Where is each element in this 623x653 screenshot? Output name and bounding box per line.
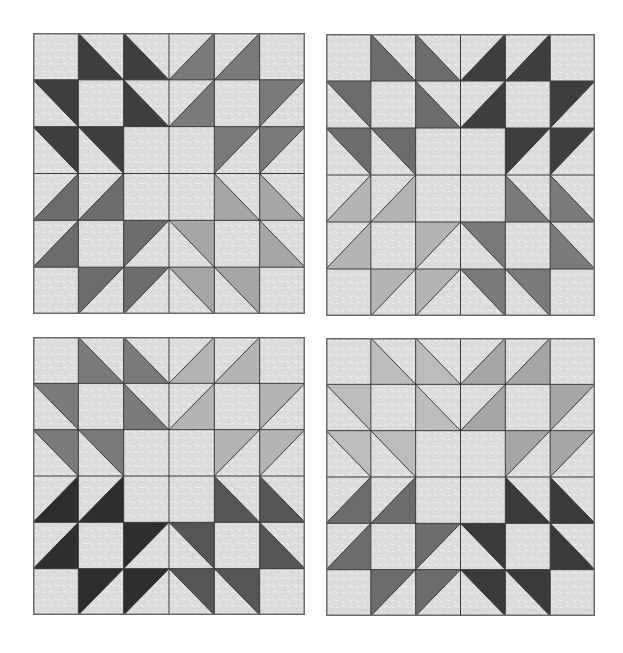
block-bottom-left xyxy=(33,337,305,615)
block-bottom-right xyxy=(326,338,595,616)
block-top-right xyxy=(326,34,595,316)
block-top-left xyxy=(33,33,305,314)
